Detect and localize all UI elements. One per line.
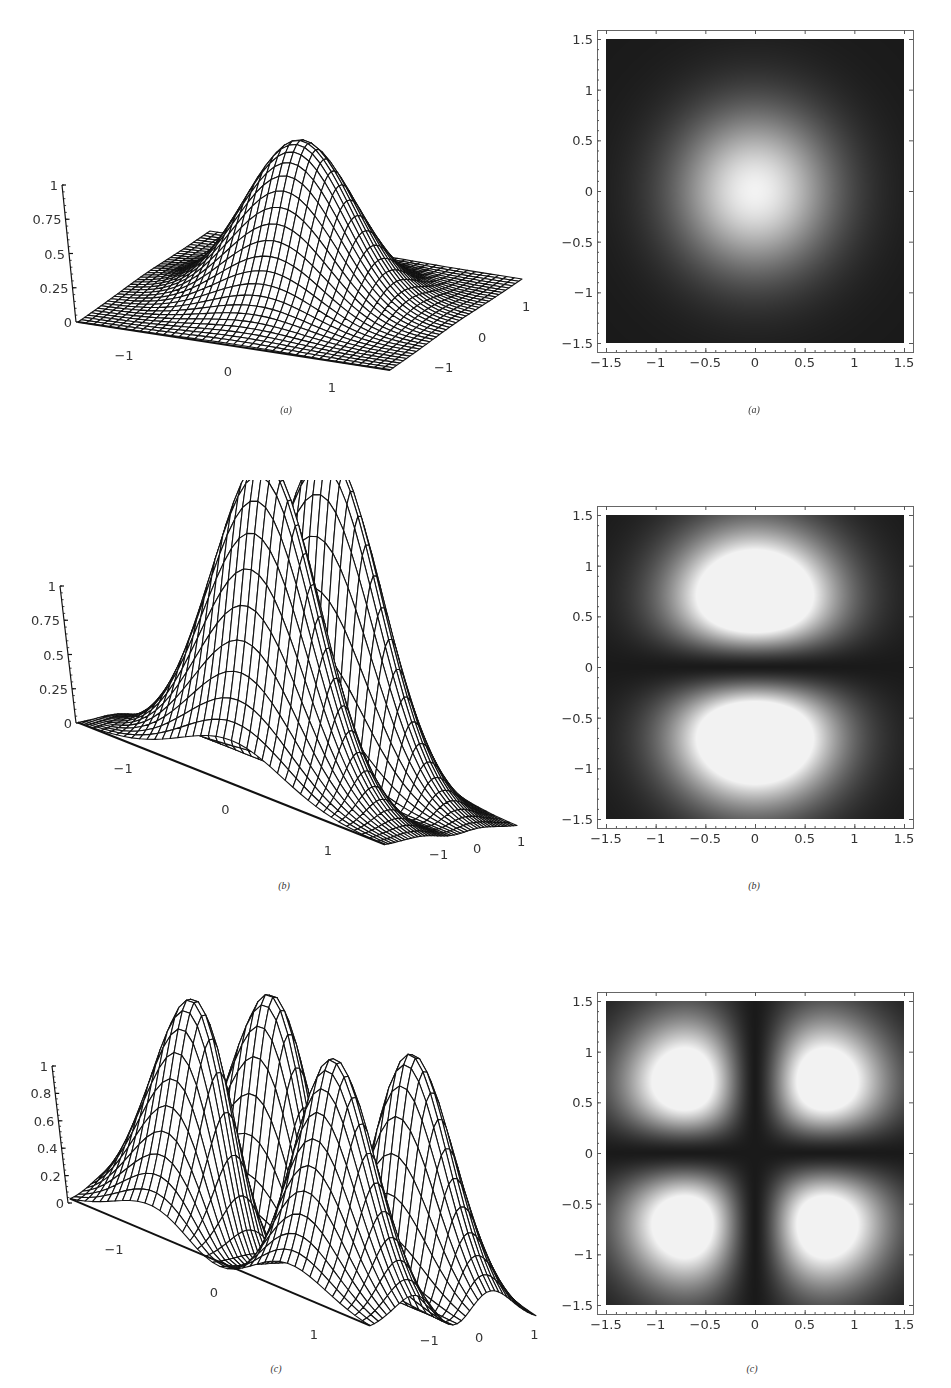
density-y-tick-label: −1.5 (561, 1298, 593, 1313)
side-axis-tick-label: 0 (478, 329, 486, 344)
z-tick-label: 0 (64, 315, 72, 330)
density-y-tick-label: −1 (574, 1247, 593, 1262)
caption-left-a: (a) (280, 404, 292, 415)
density-y-tick-label: 0.5 (572, 133, 593, 148)
density-x-tick-label: −1 (646, 831, 665, 846)
front-axis-tick-label: −1 (114, 761, 133, 776)
density-y-tick-label: −0.5 (561, 1196, 593, 1211)
z-tick-label: 0.75 (33, 212, 62, 227)
density-x-tick-label: 0 (751, 1317, 759, 1332)
z-tick-label: 0.75 (31, 613, 60, 628)
density-x-tick-label: 1.5 (894, 355, 915, 370)
density-x-tick-label: 1.5 (894, 831, 915, 846)
front-axis-tick-label: −1 (104, 1242, 123, 1257)
surface-plot-a (0, 80, 540, 420)
surface-canvas-b (0, 480, 540, 880)
density-x-tick-label: 0.5 (794, 355, 815, 370)
density-y-tick-label: 1 (585, 558, 593, 573)
density-x-tick-label: 0.5 (794, 831, 815, 846)
z-tick-label: 0.2 (40, 1168, 61, 1183)
density-y-tick-label: 0.5 (572, 1095, 593, 1110)
side-axis-tick-label: −1 (429, 846, 448, 861)
front-axis-tick-label: 1 (328, 380, 336, 395)
caption-left-c: (c) (270, 1363, 281, 1374)
front-axis-tick-label: 1 (324, 843, 332, 858)
density-y-tick-label: 0 (585, 660, 593, 675)
density-y-tick-label: 0 (585, 184, 593, 199)
z-tick-label: 0.5 (44, 246, 65, 261)
density-x-tick-label: −1.5 (590, 1317, 622, 1332)
front-axis-tick-label: 0 (210, 1285, 218, 1300)
front-axis-tick-label: 0 (224, 364, 232, 379)
density-y-tick-label: 1.5 (572, 32, 593, 47)
density-x-tick-label: −1.5 (590, 831, 622, 846)
density-plot-a (560, 20, 951, 390)
caption-right-c: (c) (746, 1363, 757, 1374)
side-axis-tick-label: −1 (434, 359, 453, 374)
z-tick-label: 0.6 (34, 1113, 55, 1128)
density-y-tick-label: 1.5 (572, 508, 593, 523)
density-y-tick-label: −0.5 (561, 710, 593, 725)
density-canvas-a (560, 20, 951, 390)
z-tick-label: 0 (56, 1196, 64, 1211)
side-axis-tick-label: 1 (522, 299, 530, 314)
density-x-tick-label: 1 (850, 831, 858, 846)
density-y-tick-label: −1 (574, 761, 593, 776)
z-tick-label: 0.25 (39, 681, 68, 696)
surface-canvas-a (0, 80, 540, 420)
z-tick-label: 1 (40, 1059, 48, 1074)
density-y-tick-label: −1.5 (561, 336, 593, 351)
side-axis-tick-label: 0 (475, 1330, 483, 1345)
density-y-tick-label: −1 (574, 285, 593, 300)
density-y-tick-label: 0 (585, 1146, 593, 1161)
density-x-tick-label: −0.5 (690, 831, 722, 846)
density-x-tick-label: −1 (646, 1317, 665, 1332)
surface-plot-c (0, 960, 540, 1360)
density-y-tick-label: 1 (585, 1044, 593, 1059)
density-plot-b (560, 496, 951, 866)
z-tick-label: 0 (64, 716, 72, 731)
z-tick-label: 1 (50, 178, 58, 193)
density-x-tick-label: 0 (751, 831, 759, 846)
density-y-tick-label: 1 (585, 82, 593, 97)
density-y-tick-label: 0.5 (572, 609, 593, 624)
z-tick-label: 0.4 (37, 1141, 58, 1156)
density-y-tick-label: −0.5 (561, 234, 593, 249)
surface-canvas-c (0, 960, 540, 1360)
density-x-tick-label: 1.5 (894, 1317, 915, 1332)
density-y-tick-label: 1.5 (572, 994, 593, 1009)
side-axis-tick-label: −1 (420, 1333, 439, 1348)
front-axis-tick-label: 1 (310, 1327, 318, 1342)
density-x-tick-label: 1 (850, 355, 858, 370)
front-axis-tick-label: 0 (221, 802, 229, 817)
density-x-tick-label: −0.5 (690, 355, 722, 370)
front-axis-tick-label: −1 (114, 348, 133, 363)
density-x-tick-label: 0 (751, 355, 759, 370)
z-tick-label: 0.5 (43, 647, 64, 662)
density-x-tick-label: −1 (646, 355, 665, 370)
caption-right-b: (b) (748, 880, 760, 891)
z-tick-label: 0.8 (31, 1086, 52, 1101)
density-canvas-c (560, 982, 951, 1352)
z-tick-label: 1 (48, 579, 56, 594)
surface-plot-b (0, 480, 540, 880)
side-axis-tick-label: 1 (517, 834, 525, 849)
density-x-tick-label: −0.5 (690, 1317, 722, 1332)
caption-left-b: (b) (278, 880, 290, 891)
density-x-tick-label: −1.5 (590, 355, 622, 370)
side-axis-tick-label: 0 (473, 840, 481, 855)
side-axis-tick-label: 1 (530, 1326, 538, 1341)
density-x-tick-label: 0.5 (794, 1317, 815, 1332)
density-x-tick-label: 1 (850, 1317, 858, 1332)
caption-right-a: (a) (748, 404, 760, 415)
z-tick-label: 0.25 (40, 280, 69, 295)
density-y-tick-label: −1.5 (561, 812, 593, 827)
density-canvas-b (560, 496, 951, 866)
density-plot-c (560, 982, 951, 1352)
